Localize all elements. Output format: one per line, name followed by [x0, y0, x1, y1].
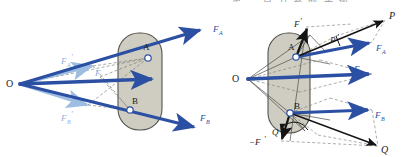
attachment-point-A-left: [145, 55, 151, 61]
svg-text:': ': [280, 124, 282, 133]
svg-text:': ': [264, 135, 266, 144]
svg-text:B: B: [206, 119, 210, 125]
pole-point-O-left: [18, 82, 22, 86]
svg-text:F: F: [375, 43, 382, 53]
vector-FB-left: [20, 84, 194, 127]
attachment-point-A-right: [293, 54, 299, 60]
label-FA-right: F A: [375, 43, 386, 55]
label-F-prime-right: F ': [293, 17, 302, 29]
label-FA-left: F A: [212, 24, 223, 36]
svg-text:B: B: [67, 119, 71, 125]
svg-text:F: F: [199, 113, 206, 123]
label-FB-right: F B: [374, 110, 385, 122]
svg-text:P: P: [329, 35, 336, 45]
vector-P-right: [296, 21, 383, 57]
svg-text:A: A: [381, 49, 386, 55]
svg-text:F: F: [60, 56, 67, 66]
pole-point-O-right: [246, 77, 250, 81]
svg-text:A: A: [66, 62, 71, 68]
svg-text:A: A: [218, 30, 223, 36]
label-FA-prime-left: F A ': [60, 53, 73, 68]
svg-text:−F: −F: [249, 137, 261, 147]
label-body-point-B-right: B: [294, 101, 300, 111]
svg-text:Q: Q: [272, 127, 279, 137]
label-F-left: F: [94, 68, 101, 78]
figure-container: 第 二 章 力 系 的 平 衡: [0, 0, 408, 157]
svg-text:': ': [71, 110, 73, 119]
svg-text:': ': [300, 17, 302, 26]
label-FB-prime-left: F B ': [60, 110, 73, 125]
label-body-point-A-left: A: [143, 42, 150, 52]
attachment-point-B-left: [127, 107, 133, 113]
label-neg-F-prime-right: −F ': [249, 135, 266, 147]
svg-text:B: B: [381, 116, 385, 122]
label-O-left: O: [6, 78, 13, 89]
svg-text:': ': [71, 53, 73, 62]
attachment-point-B-right: [287, 110, 293, 116]
label-P-prime-right: P ': [329, 33, 339, 45]
svg-text:F: F: [374, 110, 381, 120]
vector-FA-left: [20, 30, 200, 84]
mechanics-diagram: O A B F A ' F F B ' F A F B: [0, 0, 408, 157]
label-body-point-B-left: B: [132, 96, 138, 106]
svg-text:F: F: [212, 24, 219, 34]
label-body-point-A-right: A: [288, 42, 295, 52]
left-panel-group: O A B F A ' F F B ' F A F B: [6, 24, 223, 130]
right-panel-group: O A B F ' P P ' F A F F B Q: [232, 10, 395, 155]
svg-text:F: F: [94, 68, 101, 78]
label-Q-right: Q: [381, 144, 389, 155]
svg-text:F: F: [60, 113, 67, 123]
label-F-right: F: [353, 64, 360, 74]
svg-text:': ': [337, 33, 339, 42]
label-FB-left: F B: [199, 113, 210, 125]
label-P-right: P: [388, 10, 395, 21]
svg-text:F: F: [293, 19, 300, 29]
label-O-right: O: [232, 73, 239, 84]
